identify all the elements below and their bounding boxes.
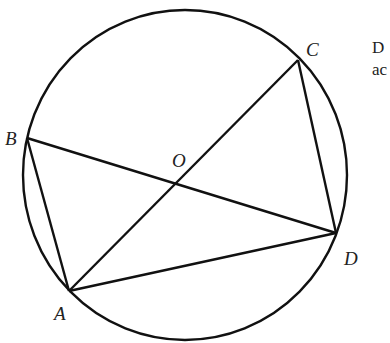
segment-cd (298, 60, 336, 233)
label-b: B (5, 128, 17, 149)
circle-diagram: B C O D A (0, 0, 390, 343)
label-d: D (343, 248, 358, 269)
segment-ac (69, 60, 298, 291)
segment-ad (69, 233, 336, 291)
segment-ab (27, 138, 69, 291)
side-text-line-1: D (372, 38, 384, 58)
label-c: C (306, 39, 319, 60)
side-text-line-2: ac (372, 60, 387, 80)
label-o: O (172, 150, 186, 171)
label-a: A (52, 303, 66, 324)
